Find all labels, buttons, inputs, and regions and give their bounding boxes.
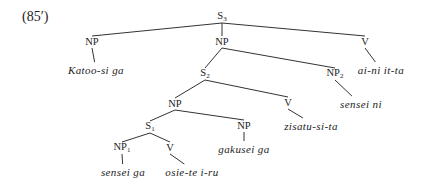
- tree-edge: [222, 48, 335, 68]
- leaf-gakusei-ga: gakusei ga: [218, 144, 269, 155]
- leaf-sensei-ni: sensei ni: [340, 99, 382, 110]
- tree-edge: [288, 109, 303, 118]
- node-v-osie: V: [166, 143, 174, 154]
- node-s1: S1: [145, 121, 154, 133]
- node-s2: S2: [200, 68, 209, 80]
- tree-edge: [150, 110, 175, 121]
- tree-edge: [365, 48, 375, 62]
- tree-edge: [170, 154, 184, 164]
- node-np-gakusei: NP: [237, 121, 250, 132]
- example-number: (85′): [22, 10, 48, 24]
- leaf-osie-te-i-ru: osie-te i-ru: [165, 167, 218, 178]
- tree-edge: [175, 80, 205, 98]
- tree-edge: [122, 154, 123, 164]
- node-v-mid: V: [284, 98, 292, 109]
- tree-edge: [205, 48, 222, 68]
- leaf-ai-ni-it-ta: ai-ni it-ta: [358, 65, 404, 76]
- tree-edge: [92, 23, 222, 36]
- tree-edge: [222, 23, 365, 36]
- node-np-top-left: NP: [85, 37, 98, 48]
- node-v-top-right: V: [361, 37, 369, 48]
- node-np-mid: NP: [168, 99, 181, 110]
- tree-edges: [0, 0, 427, 185]
- node-np2: NP2: [327, 68, 344, 80]
- tree-edge: [175, 110, 244, 120]
- tree-edge: [150, 133, 170, 142]
- leaf-katoo-si-ga: Katoo-si ga: [68, 65, 124, 76]
- leaf-sensei-ga: sensei ga: [101, 167, 145, 178]
- leaf-zisatu-si-ta: zisatu-si-ta: [284, 121, 338, 132]
- tree-edge: [92, 48, 95, 62]
- node-np1: NP1: [114, 142, 131, 154]
- tree-edge: [335, 80, 352, 96]
- tree-edge: [205, 80, 288, 97]
- node-np-top-center: NP: [215, 37, 228, 48]
- node-s3: S3: [217, 11, 226, 23]
